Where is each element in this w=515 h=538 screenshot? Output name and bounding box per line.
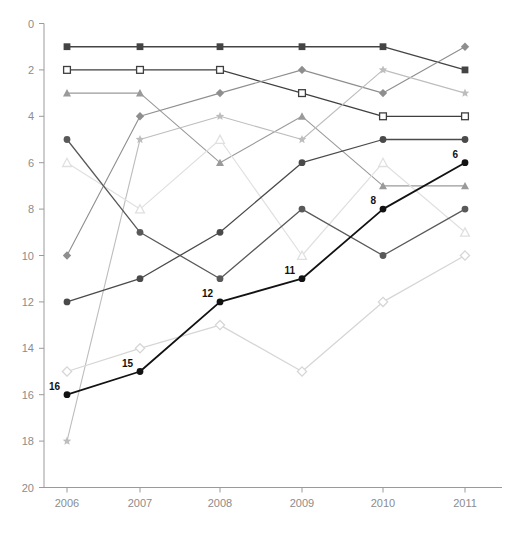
y-tick-label: 20: [22, 482, 34, 494]
x-tick-label: 2009: [290, 497, 314, 509]
data-point-filled-circle: [380, 206, 387, 213]
data-point-label: 16: [49, 381, 61, 392]
data-point-filled-circle: [64, 136, 71, 143]
series-series-filled-square-dark: [64, 43, 469, 73]
data-point-label: 12: [202, 288, 214, 299]
data-point-filled-circle: [380, 136, 387, 143]
series-line: [67, 47, 465, 70]
data-point-open-triangle: [63, 158, 72, 166]
data-point-filled-circle: [217, 275, 224, 282]
data-point-open-diamond: [135, 344, 144, 353]
axis-layer: [39, 24, 502, 493]
data-point-filled-circle: [137, 275, 144, 282]
y-axis-tick-labels: 02468101214161820: [22, 18, 34, 494]
data-point-star: [216, 112, 225, 120]
data-point-filled-circle: [462, 159, 469, 166]
data-point-open-square: [217, 67, 224, 74]
data-point-label: 11: [284, 265, 295, 276]
data-point-filled-square: [380, 43, 387, 50]
y-tick-label: 8: [28, 203, 34, 215]
data-point-filled-square: [462, 67, 469, 74]
data-point-star: [63, 437, 72, 445]
y-tick-label: 0: [28, 18, 34, 30]
data-point-open-square: [380, 113, 387, 120]
data-point-filled-square: [137, 43, 144, 50]
x-tick-label: 2011: [453, 497, 477, 509]
data-point-filled-circle: [64, 299, 71, 306]
series-layer: [62, 43, 469, 445]
data-point-filled-circle: [380, 252, 387, 259]
data-point-open-square: [299, 90, 306, 97]
data-point-open-diamond: [460, 251, 469, 260]
series-line: [67, 47, 465, 256]
data-point-filled-diamond: [136, 112, 144, 120]
y-tick-label: 16: [22, 389, 34, 401]
data-point-filled-circle: [217, 229, 224, 236]
data-point-filled-circle: [137, 368, 144, 375]
data-point-open-diamond: [62, 367, 71, 376]
data-point-filled-diamond: [216, 89, 224, 97]
data-point-filled-square: [64, 43, 71, 50]
data-point-filled-diamond: [379, 89, 387, 97]
data-point-labels: 1615121186: [49, 149, 459, 392]
data-point-open-triangle: [216, 135, 225, 143]
y-tick-label: 2: [28, 64, 34, 76]
data-point-filled-diamond: [461, 43, 469, 51]
series-line: [67, 256, 465, 372]
data-point-open-triangle: [379, 158, 388, 166]
x-tick-label: 2008: [208, 497, 232, 509]
data-point-filled-circle: [299, 159, 306, 166]
y-tick-label: 10: [22, 250, 34, 262]
y-tick-label: 18: [22, 435, 34, 447]
data-point-filled-circle: [462, 136, 469, 143]
x-tick-label: 2007: [128, 497, 152, 509]
data-point-filled-triangle: [298, 112, 306, 119]
series-series-circle-mid-rising: [64, 136, 469, 305]
y-tick-label: 6: [28, 157, 34, 169]
chart-canvas: 02468101214161820 2006200720082009201020…: [0, 0, 515, 538]
x-axis-tick-labels: 200620072008200920102011: [55, 497, 477, 509]
data-point-star: [461, 89, 470, 97]
series-line: [67, 140, 465, 302]
data-point-open-diamond: [215, 321, 224, 330]
y-tick-label: 12: [22, 296, 34, 308]
series-series-diamond-mid: [63, 43, 469, 260]
series-series-circle-dark-descending: [64, 136, 469, 282]
data-point-open-square: [462, 113, 469, 120]
rank-line-chart: 02468101214161820 2006200720082009201020…: [0, 0, 515, 538]
series-series-star-light: [63, 65, 470, 444]
y-tick-label: 4: [28, 110, 34, 122]
data-point-filled-diamond: [298, 66, 306, 74]
data-point-open-square: [137, 67, 144, 74]
data-point-filled-circle: [299, 206, 306, 213]
data-point-filled-circle: [217, 299, 224, 306]
data-point-star: [136, 135, 145, 143]
data-point-filled-square: [217, 43, 224, 50]
data-point-filled-circle: [137, 229, 144, 236]
data-point-filled-diamond: [63, 251, 71, 259]
data-point-filled-square: [299, 43, 306, 50]
data-point-label: 8: [370, 195, 376, 206]
data-point-label: 15: [122, 358, 134, 369]
y-tick-label: 14: [22, 342, 34, 354]
data-point-filled-circle: [299, 275, 306, 282]
data-point-filled-circle: [64, 391, 71, 398]
series-line: [67, 70, 465, 441]
x-tick-label: 2010: [371, 497, 395, 509]
data-point-filled-circle: [462, 206, 469, 213]
series-line: [67, 140, 465, 279]
x-tick-label: 2006: [55, 497, 79, 509]
data-point-open-square: [64, 67, 71, 74]
data-point-label: 6: [452, 149, 458, 160]
